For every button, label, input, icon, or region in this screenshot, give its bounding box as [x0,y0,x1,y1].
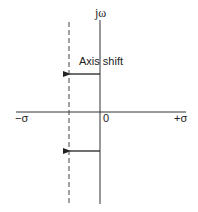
axis-shift-label: Axis shift [79,55,123,67]
s-plane-diagram: jω Axis shift −σ 0 +σ [0,0,198,212]
jw-axis-label: jω [94,6,106,20]
positive-sigma-label: +σ [174,112,187,124]
origin-label: 0 [103,112,109,124]
negative-sigma-label: −σ [15,112,28,124]
